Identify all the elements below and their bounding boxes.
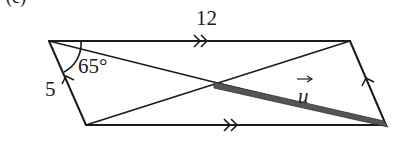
vector-u-label: u bbox=[298, 86, 309, 107]
side-right bbox=[350, 41, 386, 125]
part-label: (c) bbox=[6, 0, 26, 6]
left-side-length-label: 5 bbox=[45, 79, 56, 100]
top-side-length-label: 12 bbox=[196, 8, 217, 29]
parallelogram-diagram: 12 5 65° u (c) bbox=[0, 0, 411, 155]
angle-label: 65° bbox=[78, 56, 107, 77]
vector-arrow-icon bbox=[296, 74, 314, 84]
